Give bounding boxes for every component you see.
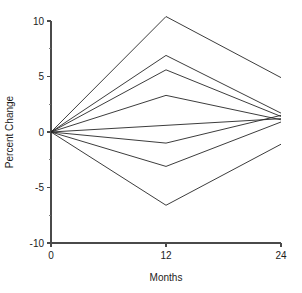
x-axis-title: Months (150, 272, 183, 283)
series-lines-group (51, 17, 281, 206)
y-tick-label: 10 (33, 16, 45, 27)
axes-group (51, 21, 281, 243)
series-line (51, 122, 281, 166)
x-axis-tick-labels: 01224 (48, 250, 287, 261)
x-tick-label: 12 (160, 250, 172, 261)
y-axis-ticks (47, 21, 51, 243)
y-axis-tick-labels: -10-50510 (30, 16, 45, 249)
y-tick-label: -5 (35, 182, 44, 193)
x-tick-label: 0 (48, 250, 54, 261)
series-line (51, 70, 281, 132)
series-line (51, 115, 281, 143)
y-tick-label: -10 (30, 238, 45, 249)
y-tick-label: 0 (38, 127, 44, 138)
x-axis-ticks (51, 243, 281, 247)
chart-canvas: -10-50510 01224 Months Percent Change (0, 0, 302, 293)
line-chart: -10-50510 01224 Months Percent Change (0, 0, 302, 293)
y-tick-label: 5 (38, 71, 44, 82)
series-line (51, 17, 281, 132)
x-tick-label: 24 (275, 250, 287, 261)
y-axis-title: Percent Change (4, 95, 15, 168)
